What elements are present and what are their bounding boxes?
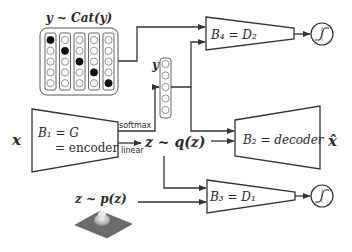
inactive-cell [105,36,112,43]
connector-y-to-decoder [191,87,234,131]
inactive-cell [105,69,112,76]
y-latent-label: y [151,58,160,72]
inactive-cell [90,80,97,87]
inactive-cell [76,36,83,43]
inactive-cell [61,36,68,43]
inactive-cell [61,69,68,76]
gaussian-surface-icon [75,211,132,238]
inactive-cell [47,58,54,65]
categorical-prior-label: y ~ Cat(y) [45,11,113,25]
inactive-cell [76,80,83,87]
decoder-label: B₂ = decoder [242,133,325,147]
encoder-label-line1: B₁ = G [37,126,79,140]
softmax-label: softmax [119,121,152,130]
active-cell [47,36,54,43]
inactive-cell [105,58,112,65]
sigmoid-icon [311,185,333,207]
inactive-cell [61,58,68,65]
inactive-cell [90,47,97,54]
d1-label: B₃ = D₁ [209,190,256,204]
active-cell [90,69,97,76]
encoder-label-line2: = encoder [55,141,118,155]
y-latent-vector [160,58,171,118]
input-x-label: x [11,131,22,149]
inactive-cell [90,36,97,43]
inactive-cell [105,47,112,54]
active-cell [76,58,83,65]
inactive-cell [76,69,83,76]
connector-cat-to-d2 [118,27,205,61]
architecture-diagram: y ~ Cat(y) y B₄ = D₂ x B₁ = G = encoder … [0,0,352,252]
inactive-cell [47,47,54,54]
reconstruction-label: x̂ [327,132,338,150]
d2-label: B₄ = D₂ [210,28,257,42]
inactive-cell [47,69,54,76]
inactive-cell [76,47,83,54]
z-prior-label: z ~ p(z) [74,192,127,206]
inactive-cell [47,80,54,87]
connector-z-to-d1 [164,156,206,188]
sigmoid-icon [311,23,333,45]
linear-label: linear [121,146,144,155]
active-cell [105,80,112,87]
connector-y-to-d2 [171,42,205,87]
inactive-cell [90,58,97,65]
z-posterior-label: z ~ q(z) [144,134,205,150]
active-cell [61,47,68,54]
inactive-cell [61,80,68,87]
categorical-prior-matrix [40,28,118,95]
